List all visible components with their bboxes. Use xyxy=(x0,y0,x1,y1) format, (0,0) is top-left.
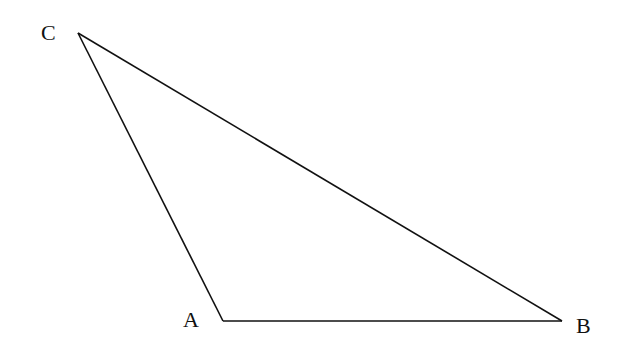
vertex-label-c: C xyxy=(41,20,56,45)
vertex-label-a: A xyxy=(183,307,199,332)
triangle-diagram: C A B xyxy=(0,0,626,339)
vertex-label-b: B xyxy=(576,313,591,338)
